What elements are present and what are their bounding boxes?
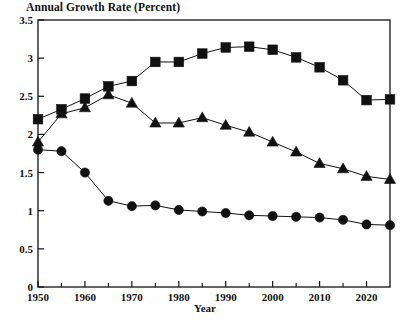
- data-point-triangle: [314, 158, 325, 168]
- data-point-circle: [33, 145, 42, 154]
- data-point-square: [174, 57, 184, 67]
- data-point-circle: [198, 207, 207, 216]
- data-point-circle: [221, 208, 230, 217]
- x-axis-label: Year: [0, 302, 410, 314]
- data-point-square: [197, 49, 207, 59]
- data-point-square: [315, 62, 325, 72]
- data-point-circle: [315, 213, 324, 222]
- data-point-square: [268, 45, 278, 55]
- data-point-circle: [245, 211, 254, 220]
- series-line-triangle: [38, 95, 390, 180]
- data-point-square: [362, 95, 372, 105]
- y-tick-label: 1: [28, 205, 34, 217]
- data-point-circle: [292, 212, 301, 221]
- y-tick-label: 3.5: [19, 14, 33, 26]
- y-tick-label: 1.5: [19, 167, 33, 179]
- chart-plot-area: 00.511.522.533.5195019601970198019902000…: [0, 0, 410, 322]
- data-point-triangle: [150, 117, 161, 127]
- data-point-circle: [362, 220, 371, 229]
- series-line-circle: [38, 150, 390, 226]
- data-point-circle: [127, 202, 136, 211]
- data-point-triangle: [267, 136, 278, 146]
- data-point-circle: [104, 196, 113, 205]
- data-point-square: [385, 95, 395, 105]
- series-circle: [33, 145, 394, 230]
- data-point-square: [244, 42, 254, 52]
- data-point-circle: [268, 211, 277, 220]
- data-point-circle: [338, 215, 347, 224]
- data-point-triangle: [291, 146, 302, 156]
- data-point-square: [127, 76, 137, 86]
- data-point-circle: [385, 221, 394, 230]
- data-point-square: [151, 57, 161, 67]
- data-point-triangle: [126, 97, 137, 107]
- y-tick-label: 3: [28, 52, 34, 64]
- series-line-square: [38, 47, 390, 119]
- growth-rate-chart: Annual Growth Rate (Percent) 00.511.522.…: [0, 0, 410, 322]
- data-point-square: [291, 53, 301, 63]
- data-point-square: [33, 114, 43, 124]
- tick-marks-group: [38, 20, 367, 287]
- y-tick-label: 2.5: [19, 90, 33, 102]
- y-tick-label: 0.5: [19, 243, 33, 255]
- y-tick-label: 2: [28, 128, 34, 140]
- axes-group: [38, 20, 390, 287]
- data-point-square: [338, 75, 348, 85]
- data-point-circle: [80, 168, 89, 177]
- data-series-group: [32, 42, 395, 230]
- data-point-circle: [151, 201, 160, 210]
- data-point-triangle: [197, 112, 208, 122]
- data-point-square: [221, 43, 231, 53]
- data-point-circle: [174, 205, 183, 214]
- data-point-circle: [57, 147, 66, 156]
